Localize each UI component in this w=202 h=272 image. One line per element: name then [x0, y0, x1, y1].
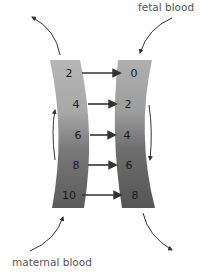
- maternal-value: 2: [66, 67, 73, 80]
- maternal-in-arrow-icon: [30, 217, 63, 251]
- maternal-value: 6: [75, 129, 82, 142]
- fetal-blood-label: fetal blood: [138, 1, 194, 13]
- fetal-in-arrow-icon: [140, 18, 172, 53]
- maternal-value: 10: [62, 189, 76, 202]
- countercurrent-diagram: 2 4 6 8 10 0 2 4 6 8: [0, 0, 202, 272]
- maternal-vessel: [50, 60, 89, 208]
- fetal-out-arrow-icon: [143, 213, 172, 250]
- maternal-blood-label: maternal blood: [12, 256, 92, 268]
- maternal-value: 4: [73, 98, 80, 111]
- maternal-out-arrow-icon: [32, 17, 60, 55]
- fetal-value: 6: [126, 159, 133, 172]
- fetal-value: 2: [125, 98, 132, 111]
- fetal-value: 4: [124, 129, 131, 142]
- fetal-value: 0: [131, 67, 138, 80]
- maternal-flow-up-arrow-icon: [53, 110, 55, 160]
- fetal-flow-down-arrow-icon: [149, 105, 151, 160]
- fetal-value: 8: [132, 189, 139, 202]
- fetal-vessel: [115, 60, 155, 208]
- maternal-value: 8: [73, 159, 80, 172]
